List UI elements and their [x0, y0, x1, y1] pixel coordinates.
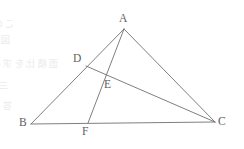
segment-ac	[124, 29, 215, 122]
vertex-label-c: C	[218, 116, 226, 128]
segment-af	[88, 29, 124, 123]
segment-group	[31, 29, 215, 124]
geometry-figure: この問題は二つの図形の性質を用いて面積比を求める三角形の分割について答えよ AB…	[0, 0, 244, 149]
vertex-label-b: B	[19, 117, 27, 129]
segment-bc	[31, 122, 215, 124]
vertex-label-a: A	[119, 13, 127, 25]
vertex-label-e: E	[104, 79, 111, 91]
segment-dc	[86, 66, 215, 122]
vertex-label-f: F	[82, 126, 88, 138]
vertex-label-d: D	[73, 53, 81, 65]
